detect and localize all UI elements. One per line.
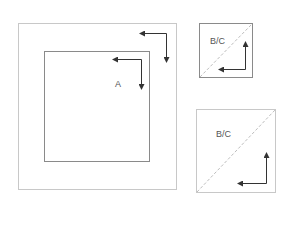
diagram-canvas: A B/C B/C	[0, 0, 294, 229]
label-bc-top: B/C	[210, 36, 226, 46]
panel-b: B/C	[200, 24, 253, 78]
inner-square	[45, 52, 150, 162]
panel-c: B/C	[197, 110, 276, 193]
outer-square	[19, 24, 177, 190]
corner-arrow-icon	[219, 42, 246, 70]
diagonal-line	[197, 110, 275, 192]
corner-arrow-icon	[238, 153, 267, 184]
panel-a: A	[19, 24, 177, 190]
outer-corner-arrow-icon	[140, 34, 167, 63]
label-bc-bottom: B/C	[216, 129, 232, 139]
label-a: A	[115, 79, 121, 89]
